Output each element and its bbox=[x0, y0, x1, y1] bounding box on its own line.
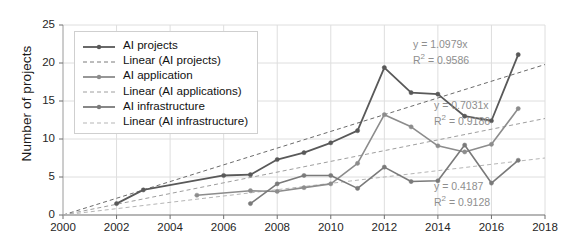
series-point bbox=[275, 189, 279, 193]
series-point bbox=[516, 107, 520, 111]
x-tick-label: 2006 bbox=[204, 221, 244, 233]
annot-application: y = 0.7031xR2 = 0.9186 bbox=[434, 99, 490, 127]
legend-item-label: AI infrastructure bbox=[123, 99, 205, 112]
annotation-r-squared: R2 = 0.9128 bbox=[434, 193, 490, 208]
series-point bbox=[355, 161, 359, 165]
series-point bbox=[275, 182, 279, 186]
x-tick-label: 2008 bbox=[257, 221, 297, 233]
series-point bbox=[222, 173, 226, 177]
x-tick-label: 2004 bbox=[150, 221, 190, 233]
annotation-r-squared: R2 = 0.9586 bbox=[413, 51, 469, 66]
legend-item[interactable]: Linear (AI infrastructure) bbox=[82, 113, 248, 128]
series-point bbox=[382, 113, 386, 117]
x-tick-label: 2014 bbox=[418, 221, 458, 233]
series-point bbox=[463, 143, 467, 147]
legend-item[interactable]: AI infrastructure bbox=[82, 98, 248, 113]
legend-swatch-icon bbox=[82, 69, 116, 81]
chart-legend: AI projectsLinear (AI projects)AI applic… bbox=[74, 31, 258, 134]
y-tick-label: 10 bbox=[27, 132, 55, 144]
series-point bbox=[302, 173, 306, 177]
series-point bbox=[248, 173, 252, 177]
y-tick-label: 25 bbox=[27, 18, 55, 30]
series-point bbox=[302, 186, 306, 190]
x-tick-label: 2012 bbox=[364, 221, 404, 233]
x-tick-label: 2016 bbox=[471, 221, 511, 233]
series-point bbox=[436, 144, 440, 148]
legend-swatch-icon bbox=[82, 99, 116, 111]
series-point bbox=[436, 92, 440, 96]
series-point bbox=[329, 141, 333, 145]
series-point bbox=[355, 129, 359, 133]
legend-item[interactable]: AI application bbox=[82, 67, 248, 82]
series-point bbox=[382, 165, 386, 169]
legend-swatch-icon bbox=[82, 39, 116, 51]
annot-projects: y = 1.0979xR2 = 0.9586 bbox=[413, 38, 469, 66]
annotation-equation: y = 0.7031x bbox=[434, 99, 490, 112]
legend-item-label: AI application bbox=[123, 68, 193, 81]
series-point bbox=[409, 91, 413, 95]
legend-item-label: AI projects bbox=[123, 38, 178, 51]
legend-item[interactable]: Linear (AI projects) bbox=[82, 52, 248, 67]
x-tick-label: 2000 bbox=[43, 221, 83, 233]
series-point bbox=[141, 188, 145, 192]
series-point bbox=[489, 142, 493, 146]
series-point bbox=[516, 53, 520, 57]
x-tick-label: 2002 bbox=[97, 221, 137, 233]
x-tick-label: 2018 bbox=[525, 221, 562, 233]
series-point bbox=[302, 151, 306, 155]
legend-item[interactable]: Linear (AI applications) bbox=[82, 83, 248, 98]
x-tick-label: 2010 bbox=[311, 221, 351, 233]
y-tick-label: 20 bbox=[27, 56, 55, 68]
series-point bbox=[329, 182, 333, 186]
legend-swatch-icon bbox=[82, 115, 116, 127]
legend-swatch-icon bbox=[82, 84, 116, 96]
series-point bbox=[409, 125, 413, 129]
legend-item-label: Linear (AI infrastructure) bbox=[123, 114, 248, 127]
annot-infrastructure: y = 0.4187R2 = 0.9128 bbox=[434, 180, 490, 208]
series-point bbox=[329, 173, 333, 177]
legend-item-label: Linear (AI projects) bbox=[123, 53, 221, 66]
series-point bbox=[382, 65, 386, 69]
series-point bbox=[275, 157, 279, 161]
annotation-equation: y = 1.0979x bbox=[413, 38, 469, 51]
annotation-equation: y = 0.4187 bbox=[434, 180, 490, 193]
legend-item[interactable]: AI projects bbox=[82, 37, 248, 52]
series-point bbox=[248, 202, 252, 206]
y-tick-label: 5 bbox=[27, 170, 55, 182]
legend-swatch-icon bbox=[82, 54, 116, 66]
y-tick-label: 15 bbox=[27, 94, 55, 106]
series-point bbox=[195, 193, 199, 197]
y-tick-label: 0 bbox=[27, 208, 55, 220]
series-point bbox=[114, 202, 118, 206]
series-point bbox=[409, 179, 413, 183]
annotation-r-squared: R2 = 0.9186 bbox=[434, 112, 490, 127]
series-point bbox=[355, 186, 359, 190]
legend-item-label: Linear (AI applications) bbox=[123, 84, 242, 97]
series-point bbox=[516, 158, 520, 162]
series-point bbox=[463, 150, 467, 154]
series-point bbox=[248, 189, 252, 193]
